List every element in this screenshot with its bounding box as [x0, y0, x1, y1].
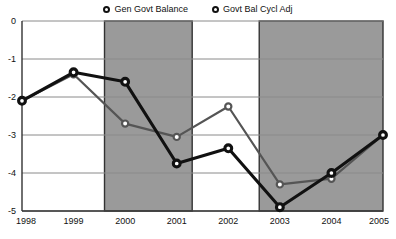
x-tick-label: 2001 — [167, 216, 187, 226]
chart-container: Gen Govt Balance Govt Bal Cycl Adj 0-1-2… — [0, 0, 396, 239]
data-point-marker — [225, 103, 231, 109]
y-tick-label: 0 — [11, 16, 16, 26]
plot-area: 0-1-2-3-4-5 1998199920002001200220032004… — [0, 0, 396, 239]
x-tick-label: 2005 — [369, 216, 389, 226]
x-tick-label: 2004 — [321, 216, 341, 226]
data-point-marker — [174, 134, 180, 140]
x-tick-label: 1999 — [64, 216, 84, 226]
data-point-marker — [122, 121, 128, 127]
data-point-marker — [173, 160, 180, 167]
x-tick-label: 2000 — [115, 216, 135, 226]
line-chart-svg: 0-1-2-3-4-5 1998199920002001200220032004… — [0, 0, 396, 239]
data-point-marker — [225, 145, 232, 152]
y-tick-label: -2 — [8, 92, 16, 102]
data-point-marker — [328, 170, 335, 177]
data-point-marker — [122, 78, 129, 85]
x-tick-label: 2002 — [218, 216, 238, 226]
data-point-marker — [380, 132, 387, 139]
y-tick-label: -3 — [8, 130, 16, 140]
x-axis-tick-labels: 19981999200020012002200320042005 — [16, 216, 389, 226]
x-tick-label: 1998 — [16, 216, 36, 226]
x-tick-label: 2003 — [270, 216, 290, 226]
data-point-marker — [277, 181, 283, 187]
y-tick-label: -5 — [8, 206, 16, 216]
data-point-marker — [70, 69, 77, 76]
data-point-marker — [276, 204, 283, 211]
data-point-marker — [19, 97, 26, 104]
y-tick-label: -1 — [8, 54, 16, 64]
y-axis-tick-labels: 0-1-2-3-4-5 — [8, 16, 16, 216]
y-tick-label: -4 — [8, 168, 16, 178]
